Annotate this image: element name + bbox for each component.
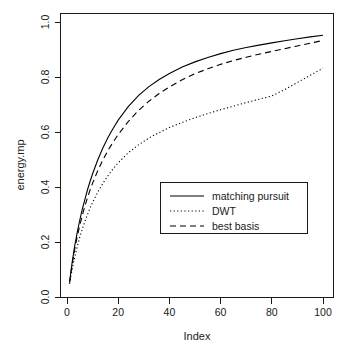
chart-legend: matching pursuitDWTbest basis [161, 183, 308, 234]
y-axis-title: energy.mp [14, 139, 26, 190]
x-tick-label: 20 [112, 306, 124, 318]
y-tick-label: 0.6 [39, 125, 51, 140]
x-tick-label: 0 [64, 306, 70, 318]
y-tick-label: 0.8 [39, 70, 51, 85]
y-tick-label: 0.2 [39, 235, 51, 250]
x-tick-label: 80 [266, 306, 278, 318]
x-tick-label: 40 [164, 306, 176, 318]
x-tick-label: 60 [215, 306, 227, 318]
y-tick-label: 0.0 [39, 290, 51, 305]
x-tick-label: 100 [314, 306, 332, 318]
chart-figure: 0.00.20.40.60.81.0 020406080100 matching… [0, 0, 351, 357]
y-tick-label: 0.4 [39, 180, 51, 195]
legend-label: matching pursuit [212, 190, 289, 202]
chart-canvas: 0.00.20.40.60.81.0 020406080100 matching… [0, 0, 351, 357]
legend-label: best basis [212, 220, 259, 232]
x-axis-title: Index [184, 330, 211, 342]
y-tick-label: 1.0 [39, 15, 51, 30]
legend-label: DWT [212, 205, 236, 217]
chart-background [0, 0, 351, 357]
